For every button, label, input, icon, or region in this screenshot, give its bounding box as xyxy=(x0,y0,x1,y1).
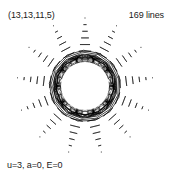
rosette-figure-panel: (13,13,11,5) 169 lines u=3, a=0, E=0 xyxy=(0,0,169,178)
equation-label: u=3, a=0, E=0 xyxy=(7,160,63,170)
parameters-label: (13,13,11,5) xyxy=(8,10,55,20)
rosette-drawing xyxy=(0,0,169,178)
line-count-label: 169 lines xyxy=(129,10,164,20)
